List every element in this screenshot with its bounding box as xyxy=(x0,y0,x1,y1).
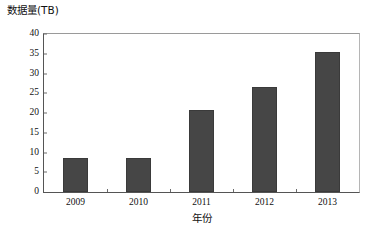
y-axis-tick-label: 10 xyxy=(30,148,40,158)
y-axis-tick-mark xyxy=(44,172,47,173)
x-axis-tick-mark xyxy=(107,189,108,192)
y-axis-tick-mark xyxy=(44,132,47,133)
y-axis-tick-label: 30 xyxy=(30,69,40,79)
y-axis-tick-mark xyxy=(44,34,47,35)
plot-area: 051015202530354020092010201120122013 xyxy=(43,33,360,193)
y-axis-tick-mark xyxy=(44,53,47,54)
x-axis-title: 年份 xyxy=(43,212,360,224)
x-axis-tick-label: 2011 xyxy=(192,197,211,208)
y-axis-tick-label: 0 xyxy=(34,187,39,197)
y-axis-tick-mark xyxy=(44,113,47,114)
y-axis-tick-label: 20 xyxy=(30,108,40,118)
bar-2011[interactable] xyxy=(189,110,214,192)
y-axis-tick-label: 15 xyxy=(30,128,40,138)
x-axis-tick-mark xyxy=(170,189,171,192)
y-axis-tick-label: 40 xyxy=(30,29,40,39)
bar-2013[interactable] xyxy=(315,52,340,192)
x-axis-tick-label: 2012 xyxy=(255,197,274,208)
y-axis-tick-label: 5 xyxy=(34,168,39,178)
bar-2009[interactable] xyxy=(63,158,88,192)
x-axis-tick-label: 2013 xyxy=(318,197,337,208)
y-axis-tick-mark xyxy=(44,152,47,153)
y-axis-tick-mark xyxy=(44,73,47,74)
x-axis-tick-mark xyxy=(296,189,297,192)
x-axis-tick-label: 2009 xyxy=(66,197,85,208)
x-axis-tick-label: 2010 xyxy=(129,197,148,208)
y-axis-tick-label: 25 xyxy=(30,89,40,99)
bar-2010[interactable] xyxy=(126,158,151,192)
y-axis-tick-label: 35 xyxy=(30,49,40,59)
x-axis-tick-mark xyxy=(233,189,234,192)
y-axis-title: 数据量(TB) xyxy=(7,4,59,16)
bar-chart-figure: 数据量(TB) 05101520253035402009201020112012… xyxy=(0,0,379,233)
y-axis-tick-mark xyxy=(44,93,47,94)
bar-2012[interactable] xyxy=(252,87,277,192)
